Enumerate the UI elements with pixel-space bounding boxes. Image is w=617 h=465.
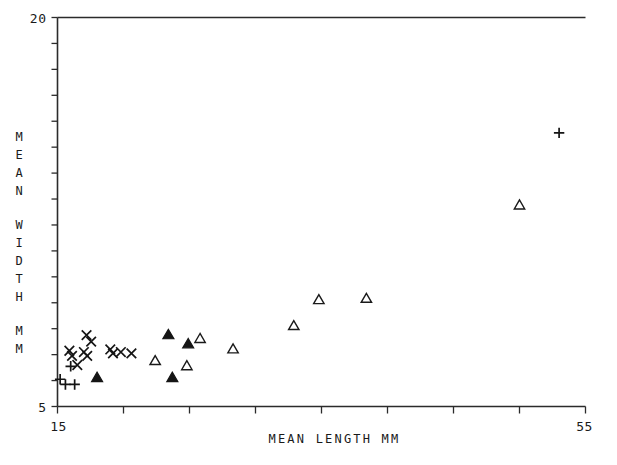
y-axis-title-char: N xyxy=(15,184,22,198)
marker-plus xyxy=(554,128,564,138)
plot-canvas: 20 5 15 55 MEAN LENGTH MM MEANWIDTHMM xyxy=(0,0,617,465)
marker-open-triangle xyxy=(228,344,238,353)
marker-open-triangle xyxy=(150,356,160,365)
y-axis-max-label: 20 xyxy=(30,11,47,26)
y-axis-title-char: E xyxy=(15,148,22,162)
y-axis-title-char: T xyxy=(15,272,22,286)
y-axis-title-char: A xyxy=(15,166,23,180)
marker-cross xyxy=(127,349,137,359)
marker-cross xyxy=(82,330,92,340)
y-axis-title-char: W xyxy=(15,218,23,232)
y-axis-title-char: M xyxy=(15,130,22,144)
y-axis-title-char: M xyxy=(15,342,22,356)
marker-cross xyxy=(73,360,83,370)
x-axis-ticks xyxy=(58,407,586,414)
marker-open-triangle xyxy=(514,200,524,209)
data-markers xyxy=(55,128,564,390)
y-axis-title: MEANWIDTHMM xyxy=(15,130,23,356)
y-axis-title-char: H xyxy=(15,290,22,304)
marker-cross xyxy=(86,337,96,347)
marker-open-triangle xyxy=(289,321,299,330)
marker-open-triangle xyxy=(182,361,192,370)
marker-plus xyxy=(60,379,70,389)
marker-cross xyxy=(116,347,126,357)
marker-filled-triangle xyxy=(92,372,103,381)
y-axis-title-char: I xyxy=(15,236,22,250)
marker-filled-triangle xyxy=(163,329,174,338)
marker-open-triangle xyxy=(314,295,324,304)
x-axis-min-label: 15 xyxy=(50,419,67,434)
y-axis-min-label: 5 xyxy=(38,400,46,415)
y-axis-title-char: M xyxy=(15,324,22,338)
axis-frame xyxy=(58,18,586,407)
marker-cross xyxy=(82,351,92,361)
x-axis-title: MEAN LENGTH MM xyxy=(269,432,401,446)
y-axis-ticks xyxy=(52,18,58,407)
marker-plus xyxy=(55,374,65,384)
plot-frame xyxy=(58,18,586,407)
marker-filled-triangle xyxy=(183,338,194,347)
y-axis-title-char: D xyxy=(15,254,22,268)
marker-open-triangle xyxy=(195,333,205,342)
marker-open-triangle xyxy=(361,293,371,302)
scatter-plot-figure: 20 5 15 55 MEAN LENGTH MM MEANWIDTHMM xyxy=(0,0,617,465)
marker-filled-triangle xyxy=(167,372,178,381)
x-axis-max-label: 55 xyxy=(576,419,593,434)
marker-plus xyxy=(69,379,79,389)
